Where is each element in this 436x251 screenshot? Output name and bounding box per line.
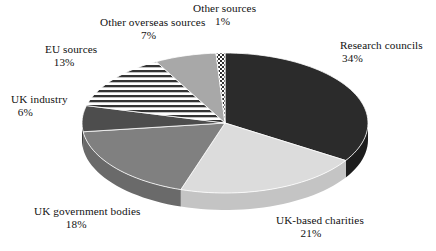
slice-label-name: Other sources <box>193 2 256 15</box>
slice-label-uk-government-bodies: UK government bodies 18% <box>34 205 140 230</box>
slice-label-percent: 7% <box>100 29 205 42</box>
slice-label-other-sources: Other sources 1% <box>193 2 256 27</box>
slice-label-research-councils: Research councils 34% <box>340 39 423 64</box>
slice-label-name: Other overseas sources <box>100 16 205 29</box>
slice-label-name: EU sources <box>45 43 97 56</box>
pie-chart-figure: Research councils 34% UK-based charities… <box>0 0 436 251</box>
slice-label-percent: 34% <box>340 52 423 65</box>
slice-label-name: UK industry <box>11 93 68 106</box>
slice-label-name: UK government bodies <box>34 205 140 218</box>
slice-label-other-overseas-sources: Other overseas sources 7% <box>100 16 205 41</box>
slice-label-percent: 21% <box>276 227 364 240</box>
slice-label-percent: 13% <box>45 56 97 69</box>
slice-label-eu-sources: EU sources 13% <box>45 43 97 68</box>
pie-slices-top <box>82 53 368 193</box>
slice-label-uk-based-charities: UK-based charities 21% <box>276 214 364 239</box>
slice-label-percent: 1% <box>193 15 256 28</box>
slice-label-name: UK-based charities <box>276 214 364 227</box>
slice-label-uk-industry: UK industry 6% <box>11 93 68 118</box>
slice-label-percent: 18% <box>34 218 140 231</box>
slice-label-name: Research councils <box>340 39 423 52</box>
slice-label-percent: 6% <box>11 106 68 119</box>
